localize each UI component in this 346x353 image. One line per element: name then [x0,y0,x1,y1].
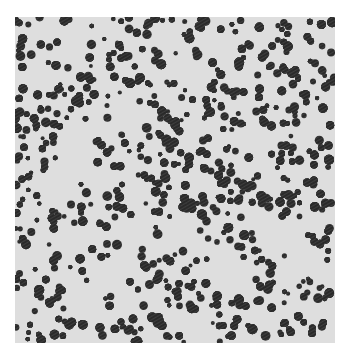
aggregate-texture [15,17,335,343]
micrograph-image [15,17,335,343]
